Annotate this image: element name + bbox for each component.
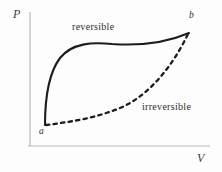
x-axis-label: V [197,152,204,164]
point-label-b: b [189,11,194,21]
y-axis-label: P [13,8,20,20]
point-label-a: a [39,127,44,137]
pv-diagram-figure: P V a b reversible irreversible [0,0,222,172]
reversible-curve-label: reversible [72,22,114,32]
irreversible-curve-label: irreversible [142,102,191,112]
